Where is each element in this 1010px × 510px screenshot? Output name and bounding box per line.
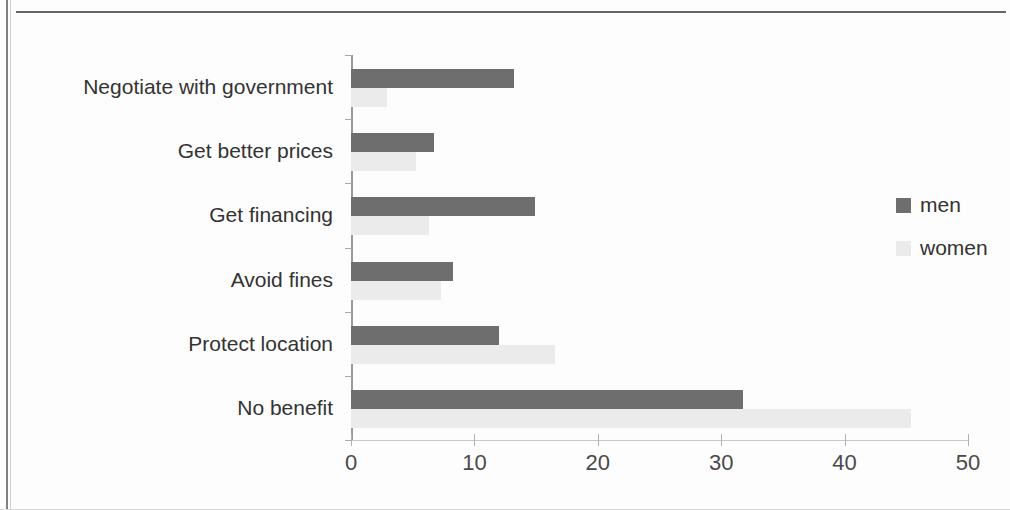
bar-men [351,133,434,152]
bar-men [351,197,535,216]
y-tick [345,376,352,377]
x-tick [845,434,846,446]
scanned-page: 01020304050 Negotiate with governmentGet… [0,0,1010,510]
legend-swatch-icon [896,198,911,213]
x-tick [474,434,475,446]
legend-label: women [920,236,988,260]
x-tick-label: 50 [956,450,980,476]
bar-women [351,281,441,300]
x-axis-line [351,440,969,441]
x-tick-label: 20 [586,450,610,476]
bar-men [351,390,743,409]
bar-women [351,409,911,428]
x-tick [351,434,352,446]
x-tick-label: 10 [462,450,486,476]
y-tick [345,248,352,249]
category-label: Get financing [209,203,333,227]
legend-swatch-icon [896,241,911,256]
y-tick [345,55,352,56]
chart-legend: menwomen [896,193,988,279]
category-label: Protect location [188,332,333,356]
category-label: Negotiate with government [83,75,333,99]
x-tick [968,434,969,446]
y-tick [345,312,352,313]
y-tick [345,119,352,120]
legend-item: women [896,236,988,260]
bar-women [351,216,429,235]
category-label: Avoid fines [231,268,333,292]
x-tick-label: 0 [345,450,357,476]
bar-chart: 01020304050 Negotiate with governmentGet… [0,0,1010,510]
category-label: Get better prices [178,139,333,163]
bar-women [351,345,555,364]
x-tick-label: 40 [832,450,856,476]
bar-women [351,152,416,171]
bar-men [351,326,499,345]
x-tick [598,434,599,446]
legend-item: men [896,193,988,217]
x-tick [721,434,722,446]
x-tick-label: 30 [709,450,733,476]
y-tick [345,183,352,184]
bar-men [351,69,514,88]
bar-women [351,88,387,107]
bar-men [351,262,453,281]
category-label: No benefit [237,396,333,420]
legend-label: men [920,193,961,217]
